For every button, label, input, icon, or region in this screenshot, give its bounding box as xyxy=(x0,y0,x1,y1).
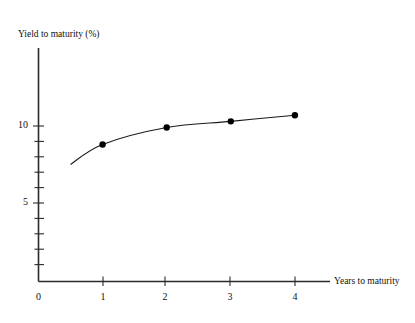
yield-curve-line xyxy=(71,115,295,164)
x-tick-label-1: 1 xyxy=(101,291,106,302)
y-tick-label-10: 10 xyxy=(18,119,28,130)
yield-curve-chart: Yield to maturity (%) 10 5 xyxy=(0,0,415,323)
y-tick-label-5: 5 xyxy=(23,196,28,207)
x-axis-title: Years to maturity xyxy=(334,276,400,286)
data-point xyxy=(228,118,234,124)
data-point xyxy=(164,124,170,130)
x-tick-label-0: 0 xyxy=(36,291,41,302)
data-point xyxy=(292,112,298,118)
data-point xyxy=(99,141,105,147)
x-tick-label-4: 4 xyxy=(293,291,298,302)
x-tick-label-2: 2 xyxy=(163,291,168,302)
y-axis-title: Yield to maturity (%) xyxy=(18,29,100,40)
chart-canvas: Yield to maturity (%) 10 5 xyxy=(0,0,415,323)
x-tick-label-3: 3 xyxy=(228,291,233,302)
